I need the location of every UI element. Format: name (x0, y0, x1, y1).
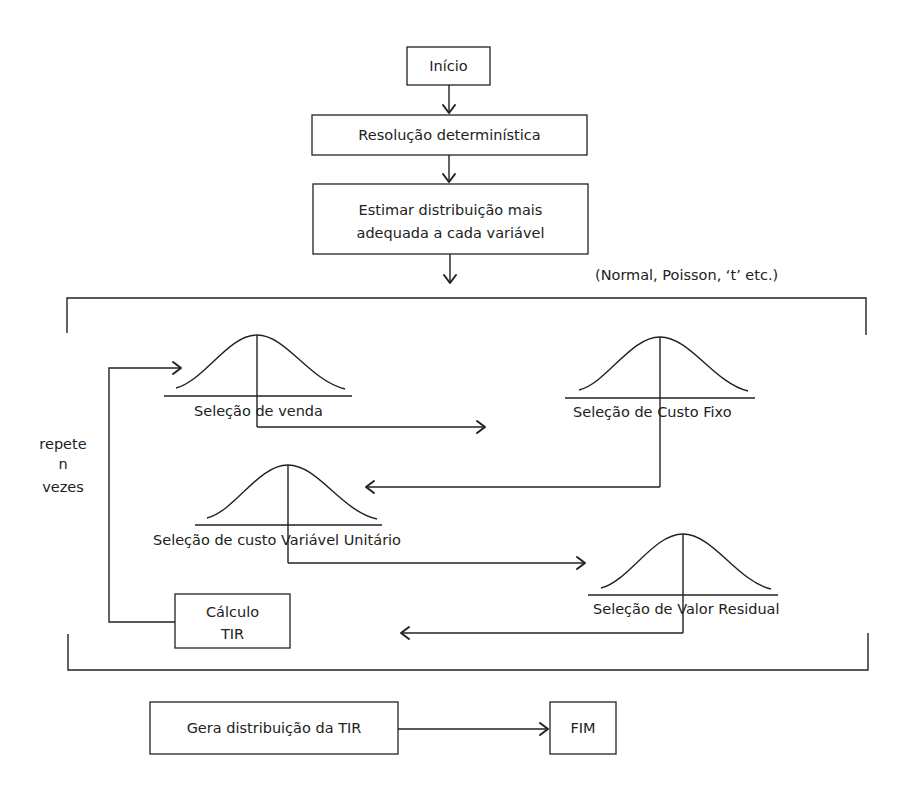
generate-irr-distribution-label: Gera distribuição da TIR (187, 720, 362, 736)
fixed-cost-selection-label: Seleção de Custo Fixo (573, 404, 732, 420)
deterministic-node: Resolução determinística (312, 115, 587, 155)
estimate-node: Estimar distribuição mais adequada a cad… (313, 184, 588, 254)
loop-note: repete n vezes (39, 436, 86, 495)
arrow-deterministic-to-estimate (443, 155, 455, 182)
residual-value-selection-node: Seleção de Valor Residual (588, 534, 780, 633)
loop-note-line2: n (58, 456, 67, 472)
arrow-fixed-cost-to-variable-cost (366, 481, 660, 493)
bell-curve-icon (176, 335, 345, 389)
distributions-note: (Normal, Poisson, ‘t’ etc.) (595, 267, 778, 283)
sales-selection-label: Seleção de venda (194, 403, 323, 419)
end-node: FIM (550, 702, 616, 754)
start-node: Início (407, 47, 490, 85)
monte-carlo-flowchart: Início Resolução determinística Estimar … (0, 0, 911, 796)
calc-irr-label-line2: TIR (220, 626, 244, 642)
arrow-start-to-deterministic (443, 85, 455, 113)
arrow-generate-to-end (398, 723, 548, 735)
variable-cost-selection-label: Seleção de custo Variável Unitário (153, 532, 401, 548)
arrow-variable-cost-to-residual (288, 557, 585, 569)
end-label: FIM (570, 720, 595, 736)
arrow-sales-to-fixed-cost (257, 421, 485, 433)
generate-irr-distribution-node: Gera distribuição da TIR (150, 702, 398, 754)
start-label: Início (429, 58, 467, 74)
loop-note-line3: vezes (42, 479, 84, 495)
calc-irr-label-line1: Cálculo (206, 604, 259, 620)
sales-selection-node: Seleção de venda (164, 335, 352, 427)
estimate-label-line1: Estimar distribuição mais (359, 202, 543, 218)
bell-curve-icon (601, 534, 771, 589)
residual-value-selection-label: Seleção de Valor Residual (593, 601, 780, 617)
loop-return-arrow (109, 362, 181, 622)
bell-curve-icon (579, 337, 748, 391)
variable-cost-selection-node: Seleção de custo Variável Unitário (153, 465, 401, 563)
deterministic-label: Resolução determinística (358, 127, 540, 143)
bell-curve-icon (207, 465, 377, 519)
calc-irr-node: Cálculo TIR (175, 594, 290, 648)
arrow-residual-to-calc-irr (401, 627, 683, 639)
arrow-estimate-to-loop (444, 254, 456, 283)
fixed-cost-selection-node: Seleção de Custo Fixo (565, 337, 755, 487)
loop-note-line1: repete (39, 436, 86, 452)
estimate-label-line2: adequada a cada variável (357, 225, 545, 241)
